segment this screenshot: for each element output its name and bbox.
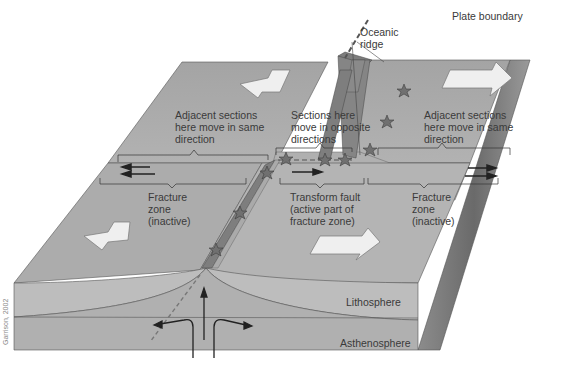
zone-label-top-left: Adjacent sections here move in same dire… bbox=[175, 109, 264, 145]
zone-label-top-middle: Sections here move in opposite direction… bbox=[291, 109, 370, 145]
asthenosphere-label: Asthenosphere bbox=[340, 337, 411, 349]
zone-label-bottom-right: Fracture zone (inactive) bbox=[412, 191, 455, 227]
plate-boundary-label: Plate boundary bbox=[452, 10, 523, 22]
transform-fault-diagram: Plate boundary Oceanic ridge Adjacent se… bbox=[0, 0, 568, 368]
zone-label-top-right: Adjacent sections here move in same dire… bbox=[424, 109, 513, 145]
lithosphere-label: Lithosphere bbox=[346, 296, 401, 308]
zone-label-bottom-middle: Transform fault (active part of fracture… bbox=[290, 191, 360, 227]
credit-text: Garrison, 2002 bbox=[2, 299, 9, 345]
zone-label-bottom-left: Fracture zone (inactive) bbox=[148, 191, 191, 227]
diagram-graphic bbox=[0, 0, 568, 368]
oceanic-ridge-label: Oceanic ridge bbox=[360, 26, 399, 50]
